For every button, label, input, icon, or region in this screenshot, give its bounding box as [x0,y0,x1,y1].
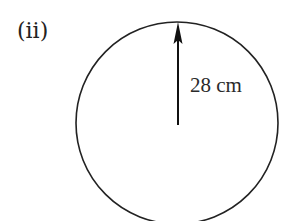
diagram-canvas: (ii) 28 cm [0,0,282,221]
radius-label: 28 cm [190,75,242,96]
part-label: (ii) [17,20,48,42]
